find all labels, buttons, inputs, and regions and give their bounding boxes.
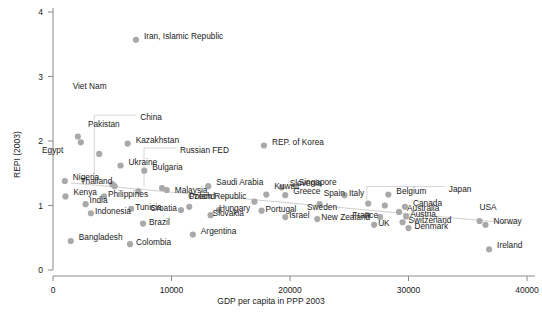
point-label: Brazil (149, 218, 170, 226)
point-label: Israel (289, 211, 309, 219)
point-label: Spain (324, 189, 345, 197)
point-label: Bulgaria (152, 163, 182, 171)
point-label: Slovakia (213, 209, 244, 217)
point-label: Sweden (307, 203, 337, 211)
x-tick-label: 0 (51, 286, 56, 295)
data-point (261, 142, 267, 148)
point-label: New Zealand (321, 213, 370, 221)
point-label: Poland (189, 192, 215, 200)
x-tick-label: 40000 (515, 286, 539, 295)
data-point (164, 187, 170, 193)
data-point (125, 140, 131, 146)
data-point (82, 201, 88, 207)
data-point (282, 192, 288, 198)
point-label: Egypt (42, 146, 63, 154)
y-tick-label: 1 (38, 201, 43, 210)
point-label: Iran, Islamic Republic (144, 32, 223, 40)
data-point (486, 246, 492, 252)
point-label: Tunisia (135, 203, 161, 211)
data-point (96, 151, 102, 157)
point-label: Viet Nam (73, 82, 107, 90)
point-label: Russian FED (180, 146, 229, 154)
data-point (140, 220, 146, 226)
point-label: Greece (293, 187, 320, 195)
data-point (186, 204, 192, 210)
data-point (141, 168, 147, 174)
point-label: USA (480, 203, 497, 211)
point-label: Denmark (415, 222, 449, 230)
data-point (405, 225, 411, 231)
data-point (396, 209, 402, 215)
point-label: Philippines (108, 190, 148, 198)
data-point (385, 191, 391, 197)
point-label: Norway (494, 217, 522, 225)
point-label: Ireland (497, 241, 522, 249)
data-point (477, 218, 483, 224)
data-point (399, 219, 405, 225)
data-point (62, 178, 68, 184)
x-tick-label: 30000 (397, 286, 421, 295)
point-label: Japan (449, 185, 472, 193)
point-label: Kazakhstan (136, 136, 179, 144)
data-point (258, 208, 264, 214)
data-point (365, 200, 371, 206)
data-point (75, 133, 81, 139)
point-label: Belgium (396, 187, 426, 195)
data-point (382, 202, 388, 208)
y-axis-title: REPI (2003) (12, 131, 22, 178)
point-label: Thailand (80, 177, 112, 185)
y-tick-label: 4 (38, 8, 43, 17)
data-point (127, 241, 133, 247)
point-label: Colombia (136, 238, 171, 246)
data-point (68, 238, 74, 244)
y-tick-label: 0 (38, 266, 43, 275)
data-point (190, 231, 196, 237)
data-point (78, 139, 84, 145)
point-label: China (140, 113, 162, 121)
point-label: Bangladesh (79, 233, 123, 241)
data-point (263, 191, 269, 197)
data-point (251, 199, 257, 205)
point-label: Argentina (201, 227, 237, 235)
data-point (314, 216, 320, 222)
chart-canvas (0, 0, 542, 322)
point-label: Singapore (299, 178, 337, 186)
point-label: Pakistan (88, 120, 120, 128)
y-tick-label: 3 (38, 72, 43, 81)
x-tick-label: 10000 (160, 286, 184, 295)
point-label: Italy (349, 189, 364, 197)
x-axis-title: GDP per capita in PPP 2003 (0, 296, 542, 306)
point-label: Indonesia (95, 207, 131, 215)
data-point (117, 162, 123, 168)
point-label: India (90, 196, 108, 204)
point-label: UK (378, 219, 390, 227)
data-point (282, 214, 288, 220)
point-label: REP. of Korea (272, 138, 324, 146)
data-point (133, 37, 139, 43)
scatter-chart-figure: 010000200003000040000 01234 Iran, Islami… (0, 0, 542, 322)
data-point (371, 222, 377, 228)
x-tick-label: 20000 (278, 286, 302, 295)
data-point (88, 210, 94, 216)
data-point (178, 207, 184, 213)
data-point (62, 193, 68, 199)
point-label: Saudi Arabia (216, 178, 263, 186)
data-point (482, 222, 488, 228)
